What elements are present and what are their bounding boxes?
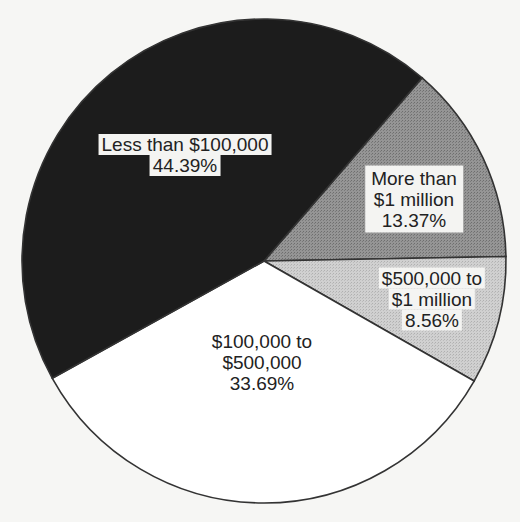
label-100k-to-500k-line2: $500,000 bbox=[212, 352, 312, 373]
label-less-than-100k-category: Less than $100,000 bbox=[99, 134, 272, 155]
label-less-than-100k-percent: 44.39% bbox=[150, 155, 220, 176]
label-more-than-1m: More than $1 million 13.37% bbox=[365, 166, 463, 233]
label-500k-to-1m-line2: $1 million bbox=[389, 289, 475, 310]
pie-chart: Less than $100,000 44.39% More than $1 m… bbox=[0, 0, 520, 522]
label-100k-to-500k: $100,000 to $500,000 33.69% bbox=[212, 331, 312, 394]
label-more-than-1m-line1: More than bbox=[371, 168, 457, 189]
label-500k-to-1m-percent: 8.56% bbox=[402, 310, 462, 331]
label-500k-to-1m: $500,000 to $1 million 8.56% bbox=[379, 268, 485, 331]
label-100k-to-500k-line1: $100,000 to bbox=[212, 331, 312, 352]
label-more-than-1m-line2: $1 million bbox=[371, 189, 457, 210]
label-more-than-1m-percent: 13.37% bbox=[371, 210, 457, 231]
label-500k-to-1m-line1: $500,000 to bbox=[379, 268, 485, 289]
label-100k-to-500k-percent: 33.69% bbox=[212, 373, 312, 394]
label-less-than-100k: Less than $100,000 44.39% bbox=[99, 134, 272, 176]
pie-chart-svg bbox=[0, 0, 520, 522]
